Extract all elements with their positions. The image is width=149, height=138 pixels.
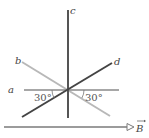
wire-label-d: d [114, 56, 120, 67]
angle-label-left: 30° [34, 92, 52, 103]
magnetic-field-wire-diagram: a b c d 30° 30° B [0, 0, 149, 138]
wire-label-b: b [15, 55, 21, 66]
field-label: B [135, 123, 143, 134]
angle-arc-right [82, 90, 84, 98]
field-vector-arrow-icon [144, 120, 146, 122]
wire-b [22, 62, 110, 116]
wire-label-a: a [8, 84, 14, 95]
wire-label-c: c [70, 5, 76, 16]
field-arrow-head-icon [127, 124, 134, 131]
angle-label-right: 30° [85, 92, 103, 103]
angle-arc-left [52, 90, 54, 98]
